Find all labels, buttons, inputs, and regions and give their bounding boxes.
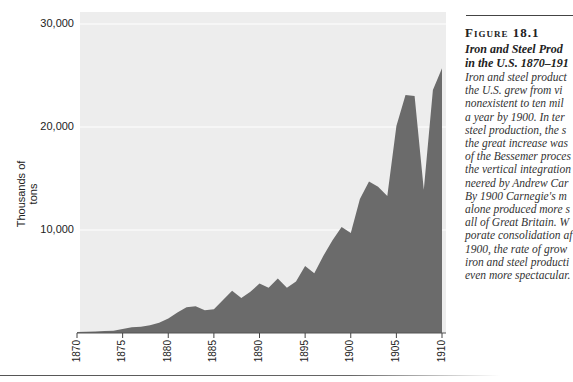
x-tick-label: 1885 (207, 340, 218, 370)
chart: Thousands of tons 30,000 20,000 10,000 1… (0, 0, 460, 370)
x-tick-label: 1910 (436, 340, 447, 370)
caption-line: the U.S. grew from vi (465, 84, 572, 97)
page-bottom-rule (0, 375, 500, 376)
caption-line: steel production, the s (465, 124, 572, 137)
figure-title-line: in the U.S. 1870–191 (465, 56, 569, 70)
caption-line: By 1900 Carnegie's m (465, 190, 572, 203)
caption-line: Iron and steel product (465, 71, 572, 84)
caption-line: nonexistent to ten mil (465, 97, 572, 110)
caption-line: a year by 1900. In ter (465, 111, 572, 124)
caption-line: alone produced more s (465, 203, 572, 216)
figure-title-line: Iron and Steel Prod (465, 42, 569, 56)
caption-line: all of Great Britain. W (465, 216, 572, 229)
x-tick-label: 1890 (253, 340, 264, 370)
caption-top-rule (466, 15, 573, 16)
caption-line: neered by Andrew Car (465, 177, 572, 190)
area-chart-plot (0, 0, 460, 345)
figure-title: Iron and Steel Prod in the U.S. 1870–191 (465, 42, 569, 70)
y-tick-label: 10,000 (14, 223, 74, 235)
figure-number: Figure 18.1 (465, 25, 539, 41)
caption-line: iron and steel producti (465, 256, 572, 269)
y-tick-label: 30,000 (14, 17, 74, 29)
caption-line: 1900, the rate of grow (465, 243, 572, 256)
x-tick-label: 1870 (71, 340, 82, 370)
x-tick-label: 1905 (390, 340, 401, 370)
figure-caption-body: Iron and steel product the U.S. grew fro… (465, 71, 572, 282)
x-tick-label: 1880 (162, 340, 173, 370)
x-tick-label: 1900 (344, 340, 355, 370)
x-tick-label: 1875 (116, 340, 127, 370)
y-tick-label: 20,000 (14, 120, 74, 132)
x-tick-label: 1895 (299, 340, 310, 370)
caption-line: the vertical integration (465, 163, 572, 176)
caption-line: the great increase was (465, 137, 572, 150)
caption-line: of the Bessemer proces (465, 150, 572, 163)
caption-line: even more spectacular. (465, 269, 572, 282)
caption-line: porate consolidation af (465, 229, 572, 242)
x-tick-marks (77, 333, 442, 338)
